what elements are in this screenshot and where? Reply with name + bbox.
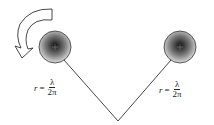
fraction: λ 2π [48,78,57,97]
radius-symbol: r [159,85,163,95]
diagram-graphics [0,0,214,125]
fraction: λ 2π [173,80,182,99]
right-sphere [164,31,196,63]
equals-sign: = [165,85,170,95]
diagram-canvas: r = λ 2π r = λ 2π [0,0,214,125]
denominator: 2π [173,90,182,99]
left-radius-equation: r = λ 2π [34,78,57,97]
equals-sign: = [40,83,45,93]
radius-symbol: r [34,83,38,93]
left-sphere [39,31,71,63]
left-tether-line [64,60,118,121]
right-radius-equation: r = λ 2π [159,80,182,99]
denominator: 2π [48,88,57,97]
